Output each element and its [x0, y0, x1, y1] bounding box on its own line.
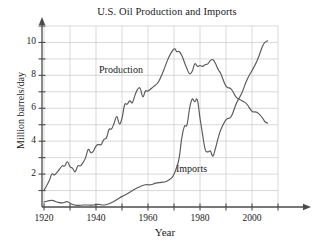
x-tick-label: 1980: [184, 213, 216, 223]
y-tick-label: 4: [18, 135, 36, 145]
plot-area: [0, 0, 319, 249]
series-line-production: [44, 49, 268, 191]
series-line-imports: [44, 41, 268, 206]
y-tick-label: 8: [18, 69, 36, 79]
x-tick-label: 1920: [28, 213, 60, 223]
y-tick-label: 6: [18, 102, 36, 112]
x-tick-label: 1960: [132, 213, 164, 223]
axis-lines: [39, 17, 311, 210]
x-tick-label: 2000: [236, 213, 268, 223]
chart-figure: U.S. Oil Production and Imports Million …: [0, 0, 319, 249]
x-tick-label: 1940: [80, 213, 112, 223]
y-tick-label: 10: [18, 36, 36, 46]
y-tick-label: 2: [18, 168, 36, 178]
vertical-gridlines: [44, 26, 278, 207]
